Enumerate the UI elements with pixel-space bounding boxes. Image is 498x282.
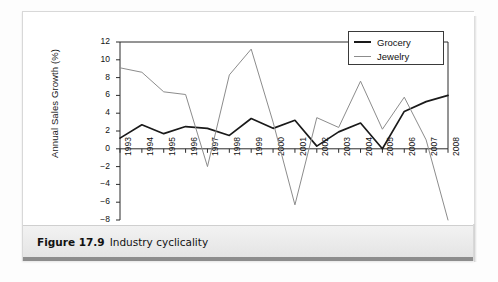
card-edge-shadow bbox=[474, 16, 477, 262]
legend-item-jewelry: Jewelry bbox=[354, 49, 438, 63]
figure-caption-number: Figure 17.9 bbox=[37, 236, 105, 248]
figure-card: Annual Sales Growth (%) 121086420−2−4−6−… bbox=[22, 11, 474, 261]
chart-legend: Grocery Jewelry bbox=[348, 31, 444, 65]
figure-screenshot: Annual Sales Growth (%) 121086420−2−4−6−… bbox=[0, 0, 498, 282]
figure-caption-bar: Figure 17.9Industry cyclicality bbox=[23, 225, 473, 261]
figure-caption-title: Industry cyclicality bbox=[110, 236, 209, 248]
legend-label-grocery: Grocery bbox=[377, 37, 411, 48]
figure-caption: Figure 17.9Industry cyclicality bbox=[23, 236, 208, 248]
legend-line-swatch-grocery bbox=[354, 41, 371, 43]
legend-label-jewelry: Jewelry bbox=[377, 51, 409, 62]
legend-line-swatch-jewelry bbox=[354, 56, 371, 57]
chart-plot-area: Annual Sales Growth (%) 121086420−2−4−6−… bbox=[23, 12, 475, 224]
legend-item-grocery: Grocery bbox=[354, 35, 438, 49]
